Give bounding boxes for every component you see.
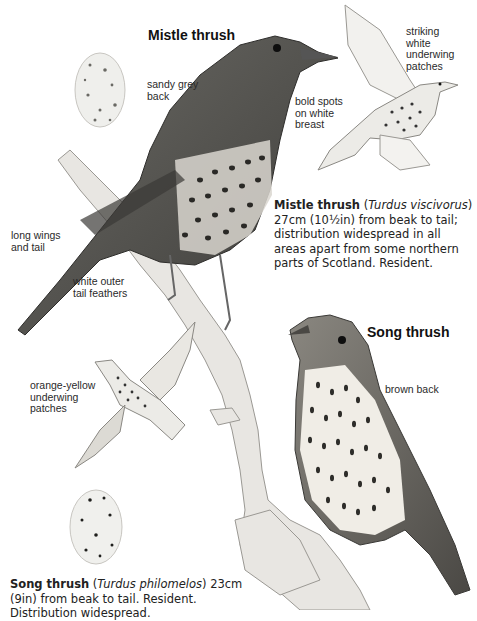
song-thrush-egg — [70, 490, 122, 564]
song-thrush-description: Song thrush (Turdus philomelos) 23cm (9i… — [10, 577, 250, 621]
label-brown-back: brown back — [385, 384, 439, 396]
label-long-wings: long wings and tail — [11, 230, 61, 253]
label-sandy-grey-back: sandy grey back — [147, 79, 198, 102]
mistle-thrush-egg — [75, 53, 125, 127]
label-white-outer-tail: white outer tail feathers — [73, 276, 127, 299]
song-thrush-title: Song thrush — [367, 324, 449, 340]
label-orange-yellow-underwing: orange-yellow underwing patches — [30, 380, 95, 415]
mistle-thrush-description: Mistle thrush (Turdus viscivorus) 27cm (… — [274, 198, 474, 271]
mistle-thrush-title: Mistle thrush — [148, 27, 235, 43]
label-bold-spots: bold spots on white breast — [295, 96, 343, 131]
label-striking-white-underwing: striking white underwing patches — [406, 26, 454, 72]
